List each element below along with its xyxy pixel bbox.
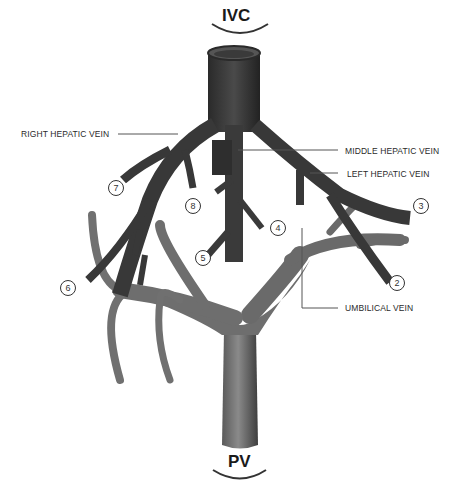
segment-7-marker: 7 bbox=[108, 180, 124, 196]
middle-hepatic-vein-label: MIDDLE HEPATIC VEIN bbox=[345, 146, 439, 156]
left-hepatic-vein-label: LEFT HEPATIC VEIN bbox=[347, 169, 429, 179]
segment-3-marker: 3 bbox=[413, 198, 429, 214]
segment-6-marker: 6 bbox=[60, 280, 76, 296]
segment-2-marker: 2 bbox=[389, 275, 405, 291]
segment-8-marker: 8 bbox=[185, 198, 201, 214]
pv-label: PV bbox=[228, 452, 251, 472]
segment-4-marker: 4 bbox=[270, 220, 286, 236]
ivc-label: IVC bbox=[222, 6, 250, 26]
right-hepatic-vein-label: RIGHT HEPATIC VEIN bbox=[21, 129, 109, 139]
segment-5-marker: 5 bbox=[195, 250, 211, 266]
vein-illustration bbox=[0, 0, 466, 497]
umbilical-vein-label: UMBILICAL VEIN bbox=[345, 303, 413, 313]
hepatic-portal-diagram: IVC PV RIGHT HEPATIC VEIN MIDDLE HEPATIC… bbox=[0, 0, 466, 497]
